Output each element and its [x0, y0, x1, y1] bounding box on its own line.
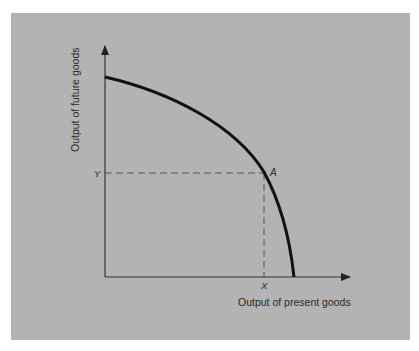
ppf-diagram: Output of future goods Output of present…	[0, 0, 419, 351]
point-a-label: A	[269, 167, 277, 178]
y-axis-label: Output of future goods	[69, 48, 81, 153]
x-axis-label: Output of present goods	[238, 296, 351, 308]
x-value-label: X	[260, 280, 268, 291]
ppf-curve	[105, 77, 294, 277]
y-value-label: Y	[94, 168, 101, 179]
